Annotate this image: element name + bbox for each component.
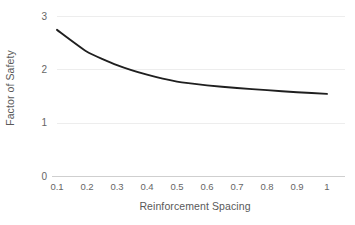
x-tick-label-0.8: 0.8 bbox=[260, 181, 273, 192]
chart-container: 0123 0.10.20.30.40.50.60.70.80.91 Factor… bbox=[0, 0, 355, 225]
x-tick-label-0.5: 0.5 bbox=[170, 181, 183, 192]
y-tick-label-3: 3 bbox=[41, 11, 47, 22]
x-tick-label-0.4: 0.4 bbox=[140, 181, 153, 192]
data-series-lines bbox=[57, 30, 327, 94]
data-line-series-0 bbox=[57, 30, 327, 94]
chart-plot-area: 0123 0.10.20.30.40.50.60.70.80.91 bbox=[0, 0, 355, 225]
y-axis-tick-labels: 0123 bbox=[41, 11, 47, 182]
y-tick-label-0: 0 bbox=[41, 171, 47, 182]
x-tick-label-0.3: 0.3 bbox=[110, 181, 123, 192]
x-tick-label-1: 1 bbox=[324, 181, 329, 192]
x-axis-title: Reinforcement Spacing bbox=[45, 200, 345, 212]
x-tick-label-0.1: 0.1 bbox=[50, 181, 63, 192]
x-tick-label-0.6: 0.6 bbox=[200, 181, 213, 192]
x-tick-label-0.7: 0.7 bbox=[230, 181, 243, 192]
y-axis-title: Factor of Safety bbox=[3, 0, 17, 176]
x-tick-label-0.2: 0.2 bbox=[80, 181, 93, 192]
y-tick-label-2: 2 bbox=[41, 64, 47, 75]
x-axis-tick-labels: 0.10.20.30.40.50.60.70.80.91 bbox=[50, 181, 329, 192]
x-tick-label-0.9: 0.9 bbox=[290, 181, 303, 192]
y-tick-label-1: 1 bbox=[41, 117, 47, 128]
gridlines bbox=[57, 17, 345, 124]
